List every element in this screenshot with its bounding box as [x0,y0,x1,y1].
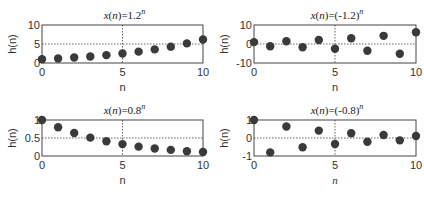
data-point [199,148,207,156]
x-tick-label: 5 [119,66,125,78]
figure: x(n)=1.2n05100510nh(n) x(n)=(-1.2)n0510-… [0,0,424,200]
data-point [86,52,94,60]
y-tick-label: -10 [236,57,252,69]
data-point [183,147,191,155]
data-point [396,136,404,144]
data-point [118,49,126,57]
data-point [38,55,46,63]
data-point [282,122,290,130]
data-point [412,28,420,36]
data-point [54,123,62,131]
data-point [70,53,78,61]
data-point [396,50,404,58]
data-point [54,54,62,62]
subplot-4: x(n)=(-0.8)n0510-101nh(n) [218,102,422,186]
data-point [102,51,110,59]
chart-title: x(n)=(-1.2)n [310,7,364,22]
y-tick-label: 0 [246,132,252,144]
data-point [118,140,126,148]
subplot-3: x(n)=0.8n051000.51nh(n) [6,102,209,186]
data-point [379,32,387,40]
data-point [363,47,371,55]
data-point [167,146,175,154]
y-tick-label: -1 [242,150,252,162]
data-point [266,148,274,156]
x-tick-label: 10 [197,159,209,171]
x-tick-label: 10 [410,159,422,171]
y-tick-label: 10 [240,19,252,31]
data-point [315,36,323,44]
data-point [315,126,323,134]
x-tick-label: 5 [332,159,338,171]
data-point [250,116,258,124]
chart-title: x(n)=0.8n [103,102,146,117]
chart-title: x(n)=(-0.8)n [310,102,364,117]
data-point [86,133,94,141]
data-point [298,43,306,51]
data-point [151,45,159,53]
data-point [412,132,420,140]
y-axis-label: h(n) [6,128,18,148]
subplot-1: x(n)=1.2n05100510nh(n) [6,7,209,93]
data-point [363,138,371,146]
x-axis-label: n [332,81,338,93]
data-point [347,34,355,42]
y-axis-label: h(n) [6,34,18,54]
x-axis-label: n [119,174,125,186]
data-point [347,129,355,137]
data-point [298,143,306,151]
data-point [183,39,191,47]
x-tick-label: 10 [197,66,209,78]
y-tick-label: 0.5 [25,132,40,144]
y-tick-label: 0 [34,150,40,162]
data-point [102,137,110,145]
x-tick-label: 10 [410,66,422,78]
y-axis-label: h(n) [218,34,230,54]
data-point [379,131,387,139]
data-point [266,42,274,50]
chart-title: x(n)=1.2n [103,7,146,22]
data-point [70,129,78,137]
data-point [331,45,339,53]
x-axis-label: n [332,174,338,186]
x-tick-label: 5 [332,66,338,78]
data-point [331,140,339,148]
y-tick-label: 10 [28,19,40,31]
data-point [250,38,258,46]
data-point [151,144,159,152]
x-tick-label: 5 [119,159,125,171]
data-point [199,35,207,43]
y-tick-label: 5 [34,38,40,50]
data-point [282,37,290,45]
data-point [134,47,142,55]
data-point [38,116,46,124]
y-axis-label: h(n) [218,128,230,148]
subplot-2: x(n)=(-1.2)n0510-10010nh(n) [218,7,422,93]
data-point [167,42,175,50]
data-point [134,142,142,150]
x-axis-label: n [119,81,125,93]
